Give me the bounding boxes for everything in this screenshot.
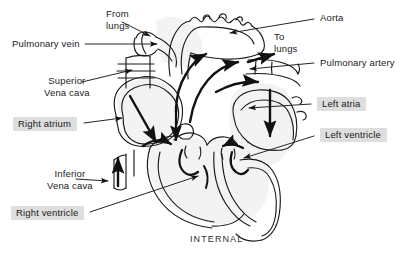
- label-to-lungs-line2: lungs: [274, 43, 297, 54]
- label-pulmonary-vein: Pulmonary vein: [12, 38, 80, 50]
- flow-arrow-pulmonary-trunk: [248, 54, 274, 62]
- label-superior-vena-cava-line1: Superior: [48, 75, 85, 86]
- label-to-lungs: Tolungs: [274, 31, 297, 54]
- label-left-atria: Left atria: [317, 97, 366, 111]
- label-inferior-vena-cava: InferiorVena cava: [47, 168, 93, 191]
- leader-pulmonary-artery: [250, 63, 314, 69]
- label-from-lungs-line1: From: [106, 8, 129, 19]
- label-pulmonary-artery: Pulmonary artery: [320, 57, 395, 69]
- label-from-lungs-line2: lungs: [106, 20, 129, 31]
- label-from-lungs: Fromlungs: [106, 8, 129, 31]
- label-right-atrium: Right atrium: [13, 117, 77, 131]
- figure-caption: INTERNAL: [190, 234, 243, 244]
- leader-aorta: [230, 19, 314, 33]
- label-superior-vena-cava: SuperiorVena cava: [44, 75, 90, 98]
- label-inferior-vena-cava-line1: Inferior: [54, 168, 85, 179]
- label-aorta: Aorta: [320, 12, 343, 24]
- label-right-ventricle: Right ventricle: [11, 206, 84, 220]
- label-superior-vena-cava-line2: Vena cava: [44, 87, 90, 98]
- label-left-ventricle: Left ventricle: [320, 128, 387, 142]
- label-to-lungs-line1: To: [274, 31, 284, 42]
- label-inferior-vena-cava-line2: Vena cava: [47, 180, 93, 191]
- heart-diagram-figure: Fromlungs Pulmonary vein SuperiorVena ca…: [0, 0, 415, 255]
